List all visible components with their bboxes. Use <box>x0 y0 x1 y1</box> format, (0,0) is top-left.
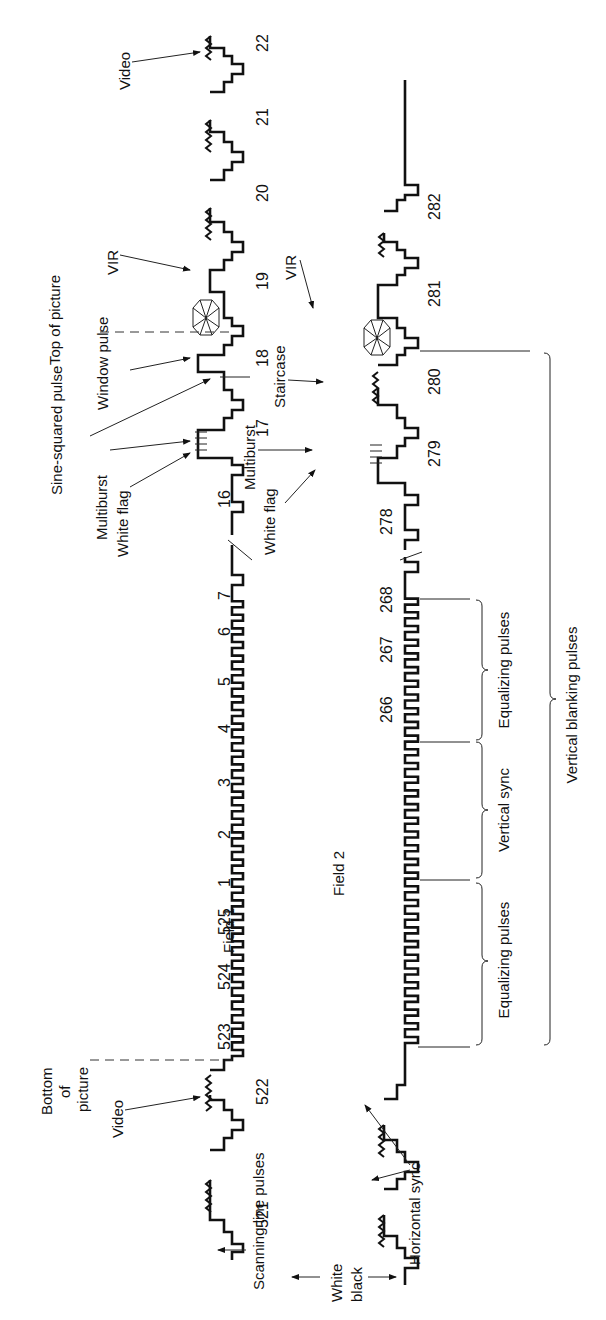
field2-label: Field 2 <box>330 851 347 896</box>
bottom-of-picture-label: Bottomofpicture <box>38 1067 91 1115</box>
svg-text:281: 281 <box>426 280 443 307</box>
svg-text:Bottom: Bottom <box>38 1067 55 1115</box>
svg-text:523: 523 <box>216 1023 233 1050</box>
field1-trace <box>193 36 252 1260</box>
svg-text:279: 279 <box>426 440 443 467</box>
svg-text:Multiburst: Multiburst <box>241 424 258 490</box>
level-legend: White black <box>292 1264 396 1302</box>
svg-text:282: 282 <box>426 193 443 220</box>
svg-text:6: 6 <box>216 627 233 636</box>
svg-text:18: 18 <box>254 349 271 367</box>
svg-text:Window pulse: Window pulse <box>94 317 111 410</box>
svg-text:White flag: White flag <box>114 490 131 557</box>
svg-text:278: 278 <box>378 508 395 535</box>
svg-text:of: of <box>56 1085 73 1098</box>
svg-text:522: 522 <box>254 1078 271 1105</box>
svg-text:21: 21 <box>254 108 271 126</box>
svg-text:266: 266 <box>378 696 395 723</box>
tv-vertical-blanking-diagram: 521 522 523 524 525 1 2 3 4 5 6 7 16 17 … <box>0 0 606 1320</box>
svg-text:White flag: White flag <box>261 488 278 555</box>
svg-text:Vertical blanking pulses: Vertical blanking pulses <box>563 627 580 784</box>
svg-text:19: 19 <box>254 272 271 290</box>
svg-text:black: black <box>348 1266 365 1302</box>
vir-symbol <box>193 300 219 335</box>
svg-text:Video: Video <box>116 52 133 90</box>
svg-text:VIR: VIR <box>282 255 299 280</box>
svg-text:Sine-squared pulse: Sine-squared pulse <box>48 366 65 495</box>
svg-text:Scanning line pulses: Scanning line pulses <box>250 1152 267 1290</box>
svg-text:Horizontal sync: Horizontal sync <box>406 1162 423 1265</box>
svg-text:Vertical sync: Vertical sync <box>495 767 512 852</box>
svg-text:22: 22 <box>254 34 271 52</box>
svg-text:picture: picture <box>74 1067 91 1112</box>
waveform-diagram: 521 522 523 524 525 1 2 3 4 5 6 7 16 17 … <box>0 0 606 1320</box>
svg-text:Video: Video <box>109 1100 126 1138</box>
vir-symbol <box>364 320 390 355</box>
svg-text:16: 16 <box>216 490 233 508</box>
svg-text:VIR: VIR <box>104 250 121 275</box>
svg-text:5: 5 <box>216 677 233 686</box>
field2-trace <box>364 80 422 1285</box>
svg-text:3: 3 <box>216 778 233 787</box>
svg-text:268: 268 <box>378 586 395 613</box>
svg-text:Top of picture: Top of picture <box>46 275 63 365</box>
svg-text:Staircase: Staircase <box>271 345 288 408</box>
svg-text:280: 280 <box>426 368 443 395</box>
svg-text:2: 2 <box>216 830 233 839</box>
svg-text:Multiburst: Multiburst <box>93 474 110 540</box>
svg-text:1: 1 <box>216 878 233 887</box>
svg-text:524: 524 <box>216 963 233 990</box>
svg-text:White: White <box>328 1264 345 1302</box>
field1-label: Field 1 <box>220 908 237 953</box>
svg-text:Equalizing pulses: Equalizing pulses <box>495 612 512 729</box>
svg-text:20: 20 <box>254 184 271 202</box>
svg-text:267: 267 <box>378 636 395 663</box>
svg-text:7: 7 <box>216 591 233 600</box>
svg-text:4: 4 <box>216 724 233 733</box>
svg-text:Equalizing pulses: Equalizing pulses <box>495 902 512 1019</box>
